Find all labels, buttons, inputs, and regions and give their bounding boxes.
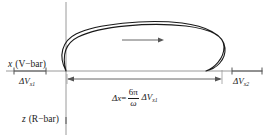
equation-factor-symbol: ΔV [141, 92, 152, 102]
relative-motion-trajectory [62, 22, 225, 71]
horizontal-axis-label: x(V−bar) [8, 60, 46, 70]
vertical-axis-label: z(R−bar) [22, 115, 59, 125]
delta-x-equation: Δx= 6π ω ΔVx1 [112, 88, 158, 108]
equation-factor: ΔVx1 [141, 93, 157, 103]
equation-lhs: Δx [112, 94, 121, 103]
delta-x-arrow-head-right [215, 77, 222, 82]
delta-x-arrow-head-left [67, 77, 74, 82]
equation-numerator: 6π [128, 88, 139, 98]
horizontal-axis-symbol: x [8, 59, 12, 69]
vertical-axis-frame: (R−bar) [29, 114, 59, 124]
delta-v-x2-label: ΔVx2 [233, 77, 249, 87]
horizontal-axis-frame: (V−bar) [15, 59, 46, 69]
relative-motion-figure: x(V−bar) z(R−bar) ΔVx1 ΔVx2 Δx= 6π ω ΔVx… [0, 0, 269, 137]
delta-v-x1-symbol: ΔV [19, 76, 30, 86]
delta-v-x1-subscript: x1 [30, 81, 35, 87]
equation-fraction: 6π ω [128, 88, 139, 108]
delta-v-x2-subscript: x2 [244, 81, 249, 87]
vertical-axis-symbol: z [22, 114, 26, 124]
delta-v-x2-symbol: ΔV [233, 76, 244, 86]
equation-denominator: ω [129, 99, 137, 109]
equation-equals: = [121, 94, 126, 103]
delta-v-x1-label: ΔVx1 [19, 77, 35, 87]
direction-arrow-head [158, 38, 164, 43]
equation-factor-subscript: x1 [152, 96, 157, 102]
